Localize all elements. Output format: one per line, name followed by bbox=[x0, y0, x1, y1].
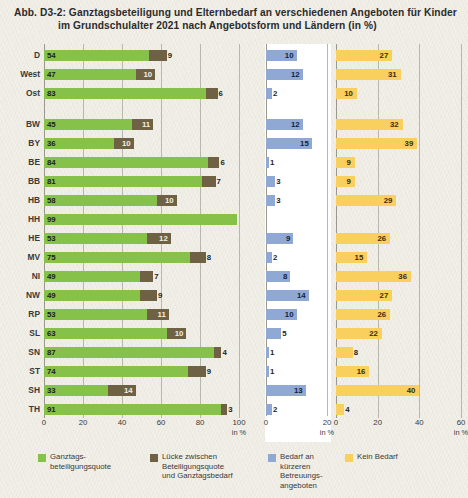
row-label-hb: HB bbox=[0, 195, 40, 206]
bar-ganztag-mv: 75 bbox=[44, 252, 190, 263]
bar-value: 9 bbox=[168, 50, 172, 61]
row-label-st: ST bbox=[0, 366, 40, 377]
bar-luecke-st: 9 bbox=[188, 366, 206, 377]
bar-ganztag-sl: 63 bbox=[44, 328, 167, 339]
bar-keinbedarf-ni: 36 bbox=[336, 271, 411, 282]
row-label-th: TH bbox=[0, 404, 40, 415]
bar-kuerzer-rp: 10 bbox=[266, 309, 297, 320]
legend-label-bedarf-kuerzer: Bedarf ankürzerenBetreuungs-angeboten bbox=[280, 452, 322, 490]
bar-value: 12 bbox=[291, 69, 300, 80]
bar-kuerzer-st: 1 bbox=[266, 366, 269, 377]
panel-kein-bedarf: 27311032399929261536272622816404 bbox=[336, 44, 461, 418]
bar-value: 14 bbox=[124, 385, 133, 396]
bar-luecke-he: 12 bbox=[147, 233, 170, 244]
row-label-bw: BW bbox=[0, 119, 40, 130]
axis-tick-60: 60 bbox=[157, 418, 166, 427]
bar-kuerzer-sl: 5 bbox=[266, 328, 281, 339]
bar-value: 4 bbox=[345, 404, 349, 415]
bar-value: 9 bbox=[207, 366, 211, 377]
bar-value: 81 bbox=[47, 176, 56, 187]
bar-kuerzer-d: 10 bbox=[266, 50, 297, 61]
bar-value: 7 bbox=[217, 176, 221, 187]
bar-kuerzer-bb: 3 bbox=[266, 176, 275, 187]
bar-value: 87 bbox=[47, 347, 56, 358]
row-label-ost: Ost bbox=[0, 88, 40, 99]
axis-tick-20: 20 bbox=[79, 418, 88, 427]
bar-value: 13 bbox=[294, 385, 303, 396]
bar-value: 1 bbox=[270, 347, 274, 358]
axis-tick-0: 0 bbox=[264, 418, 268, 427]
bar-value: 15 bbox=[300, 138, 309, 149]
bar-value: 16 bbox=[357, 366, 366, 377]
legend-item-luecke: Lücke zwischenBeteiligungsquoteund Ganzt… bbox=[150, 452, 270, 481]
bar-value: 47 bbox=[47, 69, 56, 80]
row-label-he: HE bbox=[0, 233, 40, 244]
gridline-60 bbox=[161, 44, 162, 418]
axis-tick-0: 0 bbox=[42, 418, 46, 427]
bar-keinbedarf-st: 16 bbox=[336, 366, 369, 377]
bar-value: 8 bbox=[354, 347, 358, 358]
figure-title-line1: Abb. D3-2: Ganztagsbeteiligung und Elter… bbox=[14, 6, 458, 19]
axis-tick-60: 60in % bbox=[454, 418, 468, 437]
bar-keinbedarf-he: 26 bbox=[336, 233, 390, 244]
row-label-rp: RP bbox=[0, 309, 40, 320]
bar-keinbedarf-by: 39 bbox=[336, 138, 417, 149]
bar-kuerzer-th: 2 bbox=[266, 404, 272, 415]
bar-value: 3 bbox=[276, 195, 280, 206]
bar-value: 6 bbox=[219, 88, 223, 99]
bar-keinbedarf-sn: 8 bbox=[336, 347, 353, 358]
bar-keinbedarf-west: 31 bbox=[336, 69, 401, 80]
bar-ganztag-rp: 53 bbox=[44, 309, 147, 320]
bar-value: 33 bbox=[47, 385, 56, 396]
bar-value: 36 bbox=[47, 138, 56, 149]
bar-luecke-ost: 6 bbox=[206, 88, 218, 99]
bar-luecke-west: 10 bbox=[136, 69, 156, 80]
row-label-d: D bbox=[0, 50, 40, 61]
bar-luecke-rp: 11 bbox=[147, 309, 168, 320]
gridline-40 bbox=[122, 44, 123, 418]
bar-value: 9 bbox=[346, 176, 350, 187]
bar-ganztag-sn: 87 bbox=[44, 347, 214, 358]
bar-value: 3 bbox=[276, 176, 280, 187]
bar-luecke-sl: 10 bbox=[167, 328, 187, 339]
axis-tick-80: 80 bbox=[196, 418, 205, 427]
bar-value: 31 bbox=[388, 69, 397, 80]
bar-ganztag-st: 74 bbox=[44, 366, 188, 377]
bar-value: 12 bbox=[291, 119, 300, 130]
bar-keinbedarf-rp: 26 bbox=[336, 309, 390, 320]
axis-unit-label: in % bbox=[320, 428, 334, 437]
legend-item-kein-bedarf: Kein Bedarf bbox=[345, 452, 455, 462]
bar-value: 14 bbox=[297, 290, 306, 301]
bar-value: 83 bbox=[47, 88, 56, 99]
figure-title: Abb. D3-2: Ganztagsbeteiligung und Elter… bbox=[14, 6, 458, 32]
bar-value: 10 bbox=[143, 69, 152, 80]
bar-value: 29 bbox=[384, 195, 393, 206]
bar-ganztag-bw: 45 bbox=[44, 119, 132, 130]
bar-ganztag-west: 47 bbox=[44, 69, 136, 80]
panel-ganztag-luecke: 5494710836451136108468175810995312758497… bbox=[44, 44, 239, 418]
axis-unit-label: in % bbox=[232, 428, 246, 437]
bar-value: 10 bbox=[175, 328, 184, 339]
bar-luecke-sn: 4 bbox=[214, 347, 222, 358]
bar-keinbedarf-mv: 15 bbox=[336, 252, 367, 263]
legend-label-kein-bedarf: Kein Bedarf bbox=[357, 452, 398, 462]
bar-luecke-bb: 7 bbox=[202, 176, 216, 187]
bar-ganztag-be: 84 bbox=[44, 157, 208, 168]
gridline-20 bbox=[83, 44, 84, 418]
bar-kuerzer-bw: 12 bbox=[266, 119, 303, 130]
bar-ganztag-hb: 58 bbox=[44, 195, 157, 206]
gridline-0 bbox=[44, 44, 45, 418]
gridline-20 bbox=[378, 44, 379, 418]
row-label-sl: SL bbox=[0, 328, 40, 339]
bar-kuerzer-hb: 3 bbox=[266, 195, 275, 206]
bar-luecke-mv: 8 bbox=[190, 252, 206, 263]
axis-row: 020406080100in %020in %0204060in % bbox=[0, 418, 468, 444]
legend-swatch-yellow bbox=[345, 454, 353, 462]
row-label-sn: SN bbox=[0, 347, 40, 358]
axis-tick-0: 0 bbox=[334, 418, 338, 427]
row-label-mv: MV bbox=[0, 252, 40, 263]
panel-bedarf-kuerzer: 1012212151339281410511132 bbox=[266, 44, 327, 418]
bar-value: 75 bbox=[47, 252, 56, 263]
bar-value: 36 bbox=[398, 271, 407, 282]
bar-value: 8 bbox=[207, 252, 211, 263]
